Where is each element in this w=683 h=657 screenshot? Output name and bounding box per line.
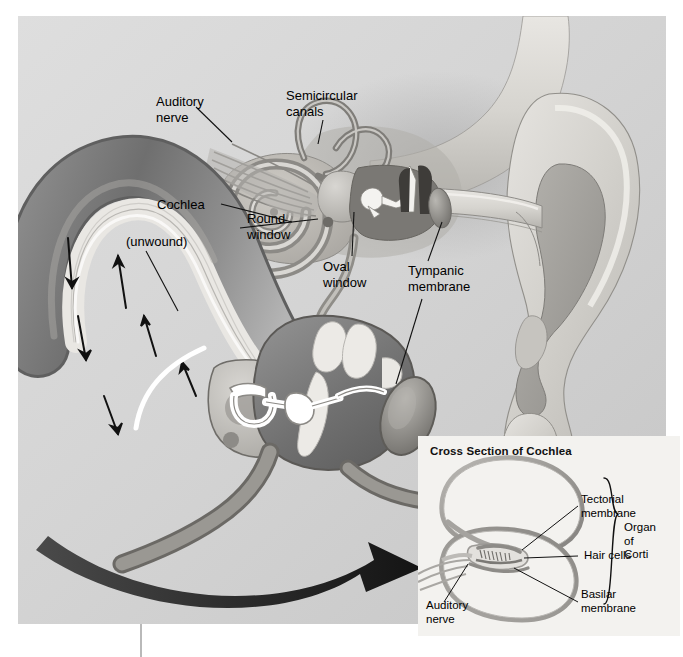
label-cochlea: Cochlea xyxy=(157,197,205,213)
page-gutter-rule xyxy=(140,624,142,657)
label-tectorial-membrane: Tectorial membrane xyxy=(581,493,636,520)
label-inset-auditory-nerve: Auditory nerve xyxy=(426,599,468,626)
label-basilar-membrane: Basilar membrane xyxy=(581,588,636,615)
label-semicircular-canals: Semicircular canals xyxy=(286,88,358,119)
cross-section-inset: Cross Section of Cochlea Tectorial membr… xyxy=(418,436,680,636)
illustration-plate: Auditory nerve Semicircular canals Cochl… xyxy=(18,16,666,624)
label-auditory-nerve: Auditory nerve xyxy=(156,94,204,125)
label-unwound: (unwound) xyxy=(126,234,187,250)
inset-title: Cross Section of Cochlea xyxy=(430,445,572,457)
label-round-window: Round window xyxy=(247,211,290,242)
round-window-small xyxy=(323,217,333,227)
label-oval-window: Oval window xyxy=(323,259,366,290)
figure-page: Auditory nerve Semicircular canals Cochl… xyxy=(0,0,683,657)
round-window-big xyxy=(223,432,239,448)
label-tympanic-membrane: Tympanic membrane xyxy=(408,263,470,294)
label-organ-of-corti: Organ of Corti xyxy=(624,521,656,562)
